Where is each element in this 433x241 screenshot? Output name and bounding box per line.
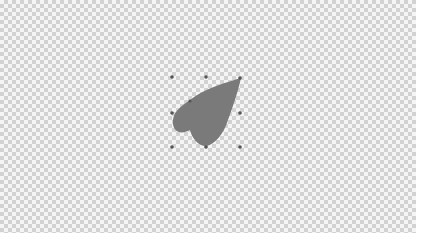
resize-handle-middle-right[interactable] [238,111,242,115]
shape-node-point[interactable] [188,99,191,102]
resize-handle-bottom-right[interactable] [238,145,242,149]
resize-handle-top-left[interactable] [170,75,174,79]
drawing-stage [0,0,433,241]
resize-handle-middle-left[interactable] [170,111,174,115]
heart-shape[interactable] [173,78,241,146]
resize-handle-bottom-center[interactable] [204,145,208,149]
resize-handle-top-right[interactable] [238,76,242,80]
resize-handle-bottom-left[interactable] [170,145,174,149]
resize-handle-top-center[interactable] [204,75,208,79]
